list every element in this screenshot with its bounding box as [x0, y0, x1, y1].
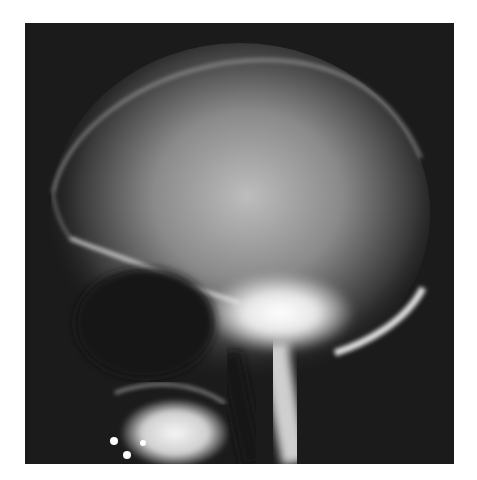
petrous-bone: [205, 273, 355, 353]
dental-filling: [140, 440, 146, 446]
dental-filling: [110, 437, 118, 445]
teeth: [120, 398, 230, 464]
skull-radiograph: [25, 23, 454, 464]
xray-image: Lateral skull X-ray radiograph: [25, 23, 454, 464]
facial-region: [75, 268, 215, 378]
dental-filling: [123, 451, 131, 459]
